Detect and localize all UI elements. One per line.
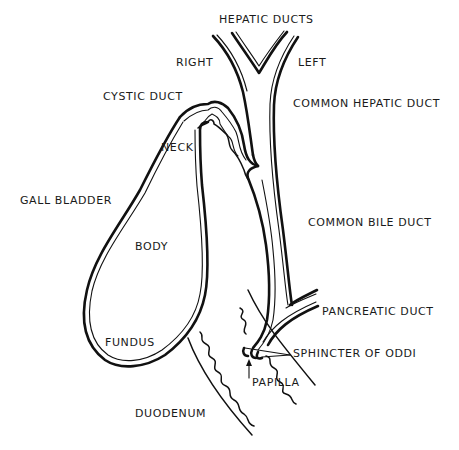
label-fundus: FUNDUS: [105, 336, 155, 349]
label-right: RIGHT: [176, 56, 213, 69]
label-body: BODY: [135, 240, 168, 253]
label-neck: NECK: [161, 141, 194, 154]
label-left: LEFT: [298, 56, 326, 69]
label-common-hepatic-duct: COMMON HEPATIC DUCT: [293, 97, 440, 110]
label-hepatic-ducts: HEPATIC DUCTS: [219, 13, 314, 26]
label-papilla: PAPILLA: [252, 376, 300, 389]
label-gall-bladder: GALL BLADDER: [20, 194, 112, 207]
duodenal-mucosa-right: [240, 308, 246, 334]
common-bile-duct: [247, 155, 275, 350]
hepatic-duct-junction: [232, 31, 287, 73]
label-sphincter-of-oddi: SPHINCTER OF ODDI: [293, 347, 416, 360]
biliary-anatomy-diagram: HEPATIC DUCTS RIGHT LEFT CYSTIC DUCT COM…: [0, 0, 459, 450]
label-common-bile-duct: COMMON BILE DUCT: [308, 216, 432, 229]
label-cystic-duct: CYSTIC DUCT: [103, 90, 183, 103]
label-pancreatic-duct: PANCREATIC DUCT: [322, 305, 434, 318]
label-duodenum: DUODENUM: [135, 407, 206, 420]
